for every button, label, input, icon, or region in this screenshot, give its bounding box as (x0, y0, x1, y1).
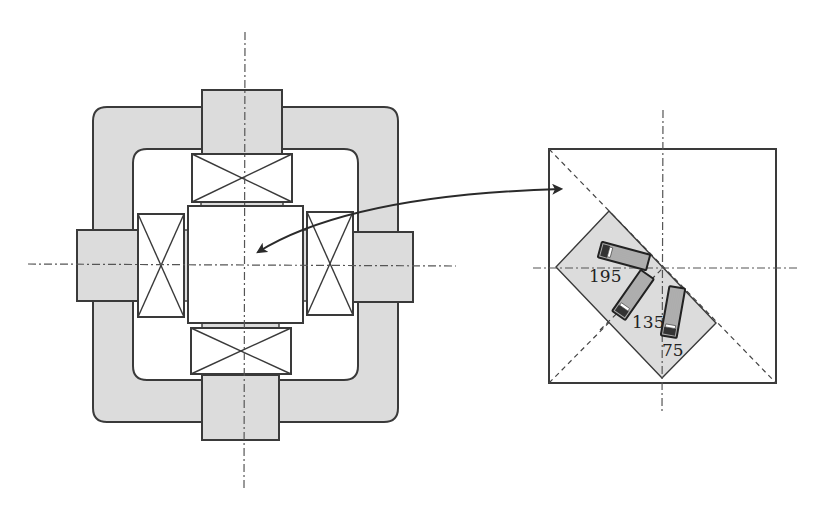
pole-bottom (202, 375, 279, 440)
coil-top (192, 154, 292, 202)
diagram-canvas: 195 135 75 (0, 0, 825, 511)
pole-right (353, 232, 413, 302)
pole-left (77, 230, 138, 301)
chip-label-135: 135 (632, 312, 664, 332)
chip-label-75: 75 (662, 340, 684, 360)
pole-top (202, 90, 282, 154)
magnet-cross-section (28, 32, 456, 488)
enlarged-view: 195 135 75 (533, 110, 800, 413)
coil-bottom (191, 328, 291, 374)
chip-label-195: 195 (589, 266, 621, 286)
coil-left (138, 214, 184, 317)
coil-right (307, 212, 353, 315)
